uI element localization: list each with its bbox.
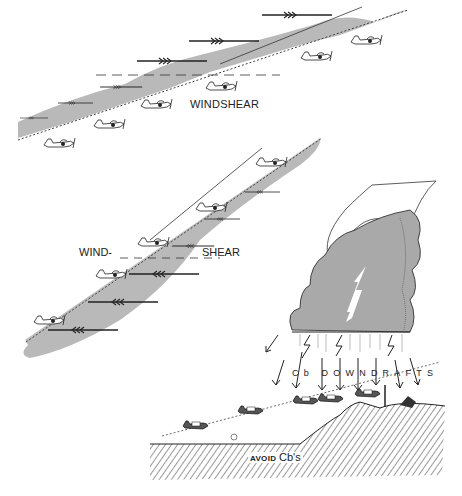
avoid-cb-label: AVOID Cb's (248, 452, 303, 463)
shear-label-middle: SHEAR (202, 247, 240, 258)
cb-downdrafts-label: Cb DOWNDRAFTS (292, 369, 438, 378)
shear-layer-middle (23, 138, 320, 358)
top-windshear-panel (18, 7, 408, 148)
wind-label-middle: WIND- (79, 247, 112, 258)
cbs-text: Cb's (279, 451, 301, 463)
middle-windshear-panel (23, 138, 322, 358)
terrain (150, 402, 445, 480)
windshear-label-top: WINDSHEAR (190, 99, 259, 110)
avoid-text: AVOID (250, 454, 276, 463)
